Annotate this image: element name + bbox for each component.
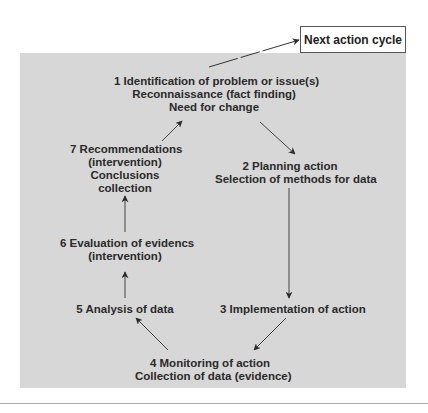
step-7-recommendations: 7 Recommendations (intervention) Conclus…: [70, 143, 180, 195]
step-2-line-2: Selection of methods for data: [215, 173, 365, 186]
step-3-implementation: 3 Implementation of action: [220, 303, 360, 316]
next-action-cycle-box: Next action cycle: [300, 26, 406, 53]
next-action-cycle-label: Next action cycle: [304, 33, 402, 47]
arrow-1-to-2: [260, 122, 295, 154]
step-7-line-4: collection: [70, 182, 180, 195]
step-2-line-1: 2 Planning action: [215, 160, 365, 173]
step-1-line-3: Need for change: [114, 101, 314, 114]
cycle-arrows: [0, 0, 428, 413]
step-1-identification: 1 Identification of problem or issue(s) …: [114, 75, 314, 114]
step-6-line-2: (intervention): [60, 250, 190, 263]
step-2-planning: 2 Planning action Selection of methods f…: [215, 160, 365, 186]
step-4-monitoring: 4 Monitoring of action Collection of dat…: [135, 357, 285, 383]
arrow-4-to-5: [136, 318, 168, 350]
arrow-1-to-next-cycle: [209, 40, 299, 67]
arrow-7-to-1: [162, 121, 182, 141]
step-1-line-1: 1 Identification of problem or issue(s): [114, 75, 314, 88]
step-1-line-2: Reconnaissance (fact finding): [114, 88, 314, 101]
step-4-line-2: Collection of data (evidence): [135, 370, 285, 383]
arrow-3-to-4: [254, 318, 286, 350]
step-6-evaluation: 6 Evaluation of evidencs (intervention): [60, 237, 190, 263]
step-6-line-1: 6 Evaluation of evidencs: [60, 237, 190, 250]
step-3-line-1: 3 Implementation of action: [220, 303, 360, 316]
step-4-line-1: 4 Monitoring of action: [135, 357, 285, 370]
step-7-line-3: Conclusions: [70, 169, 180, 182]
step-7-line-2: (intervention): [70, 156, 180, 169]
step-5-line-1: 5 Analysis of data: [75, 303, 175, 316]
step-7-line-1: 7 Recommendations: [70, 143, 180, 156]
step-5-analysis: 5 Analysis of data: [75, 303, 175, 316]
